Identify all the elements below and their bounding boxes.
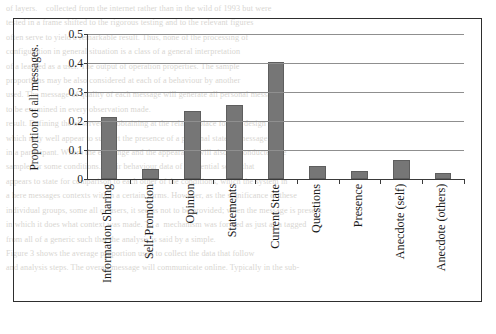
gridline [88, 34, 464, 35]
chart-figure: Proportion of all messages. 0.50.40.30.2… [13, 18, 482, 302]
x-axis-tick-label-text: Opinion [184, 184, 199, 224]
x-axis-tick [464, 179, 465, 184]
x-axis-tick-label: Self-Promotion [129, 182, 171, 294]
gridline [88, 92, 464, 93]
bar [351, 171, 368, 179]
y-axis-tick-label: 0 [77, 173, 83, 186]
y-axis-tick [84, 92, 88, 93]
x-axis-tick-label: Questions [296, 182, 338, 294]
bar [142, 169, 159, 179]
x-axis-tick-label-text: Information Sharing [100, 183, 115, 282]
x-axis-tick-label: Statements [212, 182, 254, 294]
y-axis-tick [84, 150, 88, 151]
bar [309, 166, 326, 179]
bar [435, 173, 452, 179]
x-axis-tick-labels: Information SharingSelf-PromotionOpinion… [87, 182, 463, 294]
bar [393, 160, 410, 179]
x-axis-tick-label: Anecdote (self) [379, 182, 421, 294]
x-axis-tick-label: Information Sharing [87, 182, 129, 294]
x-axis-tick-label-text: Current State [268, 184, 283, 249]
x-axis-tick-label-text: Self-Promotion [142, 183, 157, 258]
bar-series [88, 34, 464, 179]
x-axis-tick-label-text: Statements [226, 183, 241, 236]
y-axis-tick [84, 121, 88, 122]
y-axis-tick-label: 0.5 [69, 28, 84, 41]
plot-area [87, 34, 464, 180]
y-axis-tick-labels: 0.50.40.30.20.10 [43, 28, 83, 190]
y-axis-tick-label: 0.4 [69, 57, 84, 70]
x-axis-tick-label: Opinion [171, 182, 213, 294]
bar [101, 117, 118, 179]
gridline [88, 63, 464, 64]
y-axis-tick [84, 63, 88, 64]
x-axis-tick-label: Current State [254, 182, 296, 294]
y-axis-tick [84, 34, 88, 35]
y-axis-tick-label: 0.3 [69, 86, 84, 99]
y-axis-label-text: Proportion of all messages. [28, 44, 41, 170]
x-axis-tick-label-text: Anecdote (others) [435, 184, 450, 272]
y-axis-tick [84, 179, 88, 180]
x-axis-tick-label-text: Questions [309, 184, 324, 233]
y-axis-label: Proportion of all messages. [25, 27, 43, 187]
x-axis-tick-label: Presence [338, 182, 380, 294]
gridline [88, 121, 464, 122]
x-axis-tick-label-text: Presence [351, 183, 366, 226]
bar [226, 105, 243, 179]
y-axis-tick-label: 0.1 [69, 144, 84, 157]
x-axis-tick-label: Anecdote (others) [421, 182, 463, 294]
gridline [88, 150, 464, 151]
chart-plot-wrap: Proportion of all messages. 0.50.40.30.2… [14, 19, 481, 301]
x-axis-tick-label-text: Anecdote (self) [393, 183, 408, 258]
y-axis-tick-label: 0.2 [69, 115, 84, 128]
